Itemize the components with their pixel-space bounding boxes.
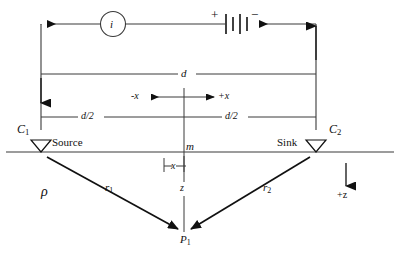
current-meter-label: i bbox=[110, 19, 113, 30]
electrode-c2-triangle bbox=[306, 140, 326, 152]
resistivity-label-rho: ρ bbox=[41, 185, 48, 199]
dimension-label-d-half-right: d/2 bbox=[225, 111, 238, 121]
ray-r2-label: r2 bbox=[263, 182, 271, 195]
ray-r2 bbox=[191, 157, 310, 229]
wire-top-left bbox=[41, 24, 100, 25]
negative-x-label: -x bbox=[131, 91, 139, 101]
battery-negative-label: − bbox=[251, 8, 258, 21]
positive-x-label: +x bbox=[218, 91, 229, 101]
battery-symbol bbox=[226, 14, 247, 34]
dimension-label-d: d bbox=[181, 68, 187, 79]
depth-direction-label: +z bbox=[337, 190, 347, 200]
dimension-label-d-half-left: d/2 bbox=[81, 111, 94, 121]
target-point-subscript: 1 bbox=[187, 238, 191, 247]
ray-r2-subscript: 2 bbox=[267, 186, 271, 195]
origin-label-m: m bbox=[186, 141, 194, 152]
depth-axis-label-z: z bbox=[180, 183, 184, 193]
offset-label-x: x bbox=[171, 161, 175, 171]
electrode-c2-role-label: Sink bbox=[277, 137, 297, 148]
target-point-name: P bbox=[180, 233, 187, 245]
electrode-c1-name: C bbox=[17, 122, 25, 136]
electrode-c2-subscript: 2 bbox=[337, 127, 341, 137]
electrode-c2-label: C2 bbox=[329, 123, 341, 137]
ray-r1-subscript: 1 bbox=[109, 186, 113, 195]
electrode-c2-name: C bbox=[329, 122, 337, 136]
electrode-c1-triangle bbox=[31, 140, 51, 152]
electrode-c1-role-label: Source bbox=[52, 137, 83, 148]
electrode-c1-subscript: 1 bbox=[25, 127, 29, 137]
resistivity-survey-diagram: i + − d -x +x d/2 d/2 C1 Source Sink C2 … bbox=[0, 0, 400, 255]
ray-r1-label: r1 bbox=[105, 182, 113, 195]
battery-positive-label: + bbox=[211, 8, 218, 21]
electrode-c1-label: C1 bbox=[17, 123, 29, 137]
target-point-label: P1 bbox=[180, 234, 191, 247]
